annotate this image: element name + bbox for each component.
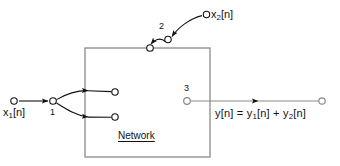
network-block-label: Network	[118, 131, 155, 141]
output-sink-node-circle	[319, 98, 325, 104]
branch-upper-wire	[57, 91, 89, 100]
branch-lower-wire	[57, 103, 89, 117]
x2-signal-label: x2[n]	[211, 9, 233, 22]
diagram-canvas	[0, 0, 340, 166]
branch-upper-segment	[88, 91, 112, 92]
terminal-2-label: 2	[159, 22, 164, 31]
switch-lower-arm-wire	[151, 39, 165, 44]
switch-contact-node-circle	[147, 45, 154, 52]
terminal-2-node-circle	[165, 36, 171, 42]
terminal-3-node-circle	[184, 98, 191, 105]
x1-tail: [n]	[13, 106, 25, 118]
x1-signal-label: x1[n]	[3, 107, 25, 120]
output-eq-tail: [n]	[293, 107, 306, 119]
output-equation-label: y[n] = y1[n] + y2[n]	[215, 108, 306, 121]
x1-source-node-circle	[11, 98, 17, 104]
terminal-1-node-circle	[50, 98, 57, 105]
x2-input-wire	[172, 16, 202, 37]
output-eq-lhs: y[n] = y	[215, 107, 252, 119]
terminal-3-label: 3	[184, 84, 189, 93]
x2-tail: [n]	[221, 8, 233, 20]
network-block-diagram: x1[n] 1 2 3 x2[n] Network y[n] = y1[n] +…	[0, 0, 340, 166]
terminal-1-label: 1	[50, 108, 55, 117]
branch-upper-node-circle	[112, 89, 118, 95]
branch-lower-node-circle	[112, 114, 118, 120]
x2-source-node-circle	[203, 11, 209, 17]
output-eq-mid: [n] + y	[257, 107, 289, 119]
